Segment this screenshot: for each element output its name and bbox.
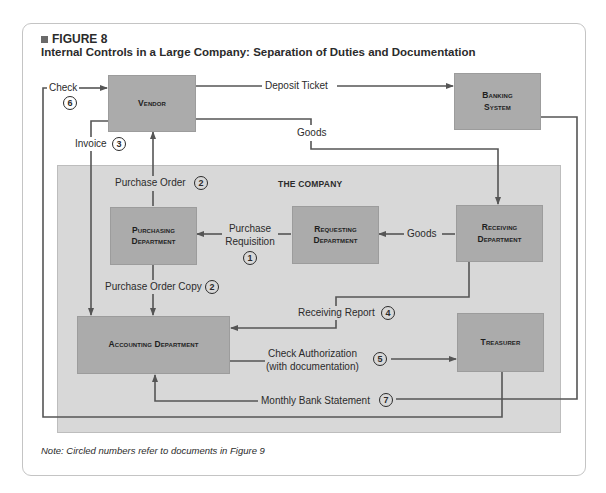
invoice-line-a xyxy=(91,121,108,137)
bank-statement-arrow xyxy=(155,375,258,401)
vendor-label: Vendor xyxy=(138,98,166,109)
purchasing-label-1: Purchasing xyxy=(131,225,175,236)
banking-label-1: Banking xyxy=(482,90,513,101)
vendor-box: Vendor xyxy=(108,75,196,132)
invoice-label: Invoice xyxy=(74,138,108,150)
receiving-department-box: Receiving Department xyxy=(456,205,543,262)
accounting-department-box: Accounting Department xyxy=(77,316,230,374)
doc-number-6: 6 xyxy=(63,96,77,110)
purchase-order-copy-label: Purchase Order Copy xyxy=(105,281,202,293)
requesting-department-box: Requesting Department xyxy=(292,206,379,264)
check-authorization-label-1: Check Authorization xyxy=(268,348,357,360)
doc-number-7: 7 xyxy=(379,393,393,407)
check-authorization-label-2: (with documentation) xyxy=(266,361,359,373)
receiving-report-label: Receiving Report xyxy=(298,307,375,319)
purchasing-label-2: Department xyxy=(131,236,175,247)
requesting-label-1: Requesting xyxy=(313,224,357,235)
doc-number-3: 3 xyxy=(112,137,126,151)
banking-system-box: Banking System xyxy=(454,73,541,130)
goods-line-b xyxy=(311,141,498,204)
receiving-label-2: Department xyxy=(477,234,521,245)
goods-internal-label: Goods xyxy=(407,228,436,240)
requesting-label-2: Department xyxy=(313,235,357,246)
receiving-report-line-a xyxy=(336,262,469,306)
receiving-report-arrow xyxy=(231,320,336,328)
accounting-label: Accounting Department xyxy=(109,339,199,350)
purchasing-department-box: Purchasing Department xyxy=(110,207,197,265)
monthly-bank-statement-label: Monthly Bank Statement xyxy=(261,395,370,407)
deposit-ticket-label: Deposit Ticket xyxy=(265,80,328,92)
purchase-order-label: Purchase Order xyxy=(115,177,186,189)
doc-number-1: 1 xyxy=(243,251,257,265)
treasurer-box: Treasurer xyxy=(457,313,544,372)
goods-line-a xyxy=(196,119,311,125)
goods-vendor-label: Goods xyxy=(297,127,326,139)
check-label: Check xyxy=(49,82,77,94)
treasurer-label: Treasurer xyxy=(481,337,521,348)
doc-number-2a: 2 xyxy=(194,176,208,190)
receiving-label-1: Receiving xyxy=(477,222,521,233)
figure-note: Note: Circled numbers refer to documents… xyxy=(41,445,265,456)
doc-number-2b: 2 xyxy=(205,280,219,294)
doc-number-5: 5 xyxy=(373,352,387,366)
banking-label-2: System xyxy=(482,102,513,113)
purchase-requisition-label-1: Purchase xyxy=(222,223,278,235)
doc-number-4: 4 xyxy=(381,306,395,320)
purchase-requisition-label-2: Requisition xyxy=(220,236,280,248)
